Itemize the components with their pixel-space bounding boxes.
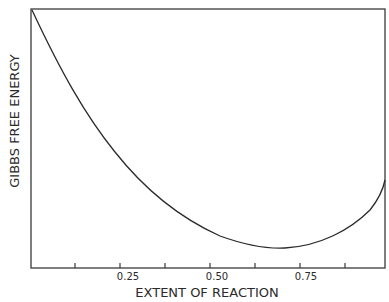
plot-frame (31, 9, 385, 268)
x-tick-label: 0.50 (206, 271, 228, 282)
gibbs-energy-curve (32, 10, 385, 248)
chart: 0.25 0.50 0.75 EXTENT OF REACTION GIBBS … (0, 0, 389, 302)
x-tick-label: 0.25 (117, 271, 139, 282)
x-axis-title: EXTENT OF REACTION (135, 285, 278, 300)
y-axis-title: GIBBS FREE ENERGY (7, 54, 22, 188)
x-axis-ticks (75, 263, 345, 268)
x-tick-label: 0.75 (295, 271, 317, 282)
